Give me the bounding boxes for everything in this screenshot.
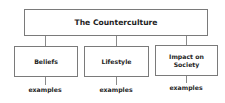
connector-root-beliefs [45, 36, 46, 46]
node-impact-label: Impact on Society [162, 53, 211, 69]
node-beliefs: Beliefs [14, 46, 78, 77]
root-node: The Counterculture [24, 9, 208, 36]
lifestyle-examples-label: examples [86, 86, 146, 93]
root-node-label: The Counterculture [75, 18, 158, 27]
node-beliefs-label: Beliefs [34, 58, 58, 66]
connector-beliefs-examples [45, 77, 46, 85]
node-lifestyle: Lifestyle [84, 46, 149, 77]
impact-examples-label: examples [156, 84, 216, 91]
connector-impact-examples [186, 76, 187, 83]
node-impact-on-society: Impact on Society [155, 45, 218, 76]
connector-root-impact [186, 36, 187, 45]
node-lifestyle-label: Lifestyle [102, 58, 132, 66]
connector-root-lifestyle [116, 36, 117, 46]
connector-lifestyle-examples [116, 77, 117, 85]
beliefs-examples-label: examples [15, 86, 75, 93]
